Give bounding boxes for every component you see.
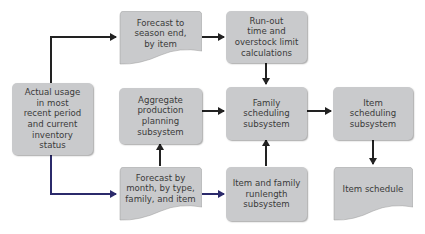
item-schedule-document: Item schedule: [333, 167, 413, 222]
item-schedule-label: Item schedule: [343, 184, 404, 195]
runout-calculations-box: Run-out time and overstock limit calcula…: [226, 11, 307, 63]
production-planning-flowchart: Actual usage in most recent period and c…: [0, 0, 425, 234]
actual-usage-label: Actual usage in most recent period and c…: [24, 87, 82, 151]
forecast-by-month-document: Forecast by month, by type, family, and …: [119, 167, 202, 222]
item-scheduling-box: Item scheduling subsystem: [333, 87, 413, 140]
aggregate-planning-box: Aggregate production planning subsystem: [119, 88, 202, 144]
actual-usage-box: Actual usage in most recent period and c…: [12, 83, 93, 155]
runout-calculations-label: Run-out time and overstock limit calcula…: [235, 16, 299, 58]
aggregate-planning-label: Aggregate production planning subsystem: [137, 95, 183, 137]
forecast-by-month-label: Forecast by month, by type, family, and …: [125, 173, 195, 205]
runlength-subsystem-label: Item and family runlength subsystem: [233, 178, 301, 210]
forecast-season-end-label: Forecast to season end, by item: [135, 18, 187, 50]
family-scheduling-label: Family scheduling subsystem: [243, 98, 290, 130]
item-scheduling-label: Item scheduling subsystem: [350, 98, 397, 130]
runlength-subsystem-box: Item and family runlength subsystem: [226, 167, 307, 221]
forecast-season-end-document: Forecast to season end, by item: [119, 11, 202, 66]
family-scheduling-box: Family scheduling subsystem: [226, 87, 307, 140]
